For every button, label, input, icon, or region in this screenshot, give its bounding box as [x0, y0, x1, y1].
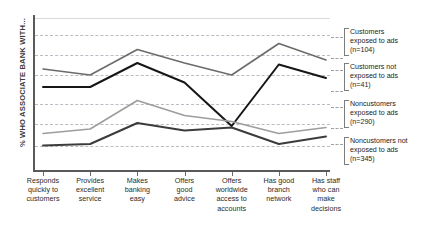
x-axis-label: Offers worldwide access to accounts: [209, 176, 255, 213]
x-label-line: branch: [256, 185, 302, 194]
legend-label-line: (n=345): [344, 155, 429, 164]
legend-leader-line: [331, 107, 343, 108]
legend-label-line: exposed to ads: [344, 72, 429, 81]
x-axis-labels: Responds quickly to customers Provides e…: [33, 176, 333, 228]
legend-label-line: (n=104): [344, 46, 429, 55]
series-line: [43, 101, 326, 134]
series-container: [33, 15, 330, 172]
x-axis-label: Offers good advice: [162, 176, 208, 204]
legend-label-line: Customers not: [344, 63, 429, 72]
x-axis-label: Has staff who can make decisions: [303, 176, 349, 213]
x-label-line: quickly to: [20, 185, 66, 194]
x-label-line: Has staff: [303, 176, 349, 185]
x-axis-label: Provides excellent service: [67, 176, 113, 204]
legend-label-line: (n=41): [344, 81, 429, 90]
x-label-line: customers: [20, 194, 66, 203]
x-label-line: decisions: [303, 204, 349, 213]
x-label-line: service: [67, 194, 113, 203]
legend-item-noncustomers-not-exposed[interactable]: Noncustomers not exposed to ads (n=345): [344, 137, 429, 164]
legend-leader-line: [331, 58, 343, 59]
x-label-line: excellent: [67, 185, 113, 194]
legend-label-line: Noncustomers not: [344, 137, 429, 146]
x-axis-label: Responds quickly to customers: [20, 176, 66, 204]
x-label-line: Makes: [114, 176, 160, 185]
x-label-line: Provides: [67, 176, 113, 185]
x-axis-label: Has good branch network: [256, 176, 302, 204]
legend-item-customers-exposed[interactable]: Customers exposed to ads (n=104): [344, 28, 429, 55]
x-label-line: Has good: [256, 176, 302, 185]
legend-label-line: (n=290): [344, 118, 429, 127]
x-label-line: advice: [162, 194, 208, 203]
legend-leader-line: [331, 144, 343, 145]
series-line: [43, 123, 326, 146]
legend-bracket: [344, 63, 349, 91]
x-label-line: Offers: [162, 176, 208, 185]
legend-leader-line: [331, 37, 343, 38]
series-line: [43, 44, 326, 76]
legend-bracket: [344, 137, 349, 165]
x-label-line: who can: [303, 185, 349, 194]
x-label-line: access to: [209, 194, 255, 203]
x-label-line: make: [303, 194, 349, 203]
legend-label-line: exposed to ads: [344, 146, 429, 155]
x-label-line: banking: [114, 185, 160, 194]
line-chart: % WHO ASSOCIATE BANK WITH... Responds qu…: [0, 0, 429, 231]
legend-leader-line: [331, 70, 343, 71]
y-axis-title: % WHO ASSOCIATE BANK WITH...: [18, 3, 27, 163]
legend-item-customers-not-exposed[interactable]: Customers not exposed to ads (n=41): [344, 63, 429, 90]
series-line: [43, 63, 326, 126]
x-label-line: network: [256, 194, 302, 203]
legend-label-line: exposed to ads: [344, 109, 429, 118]
legend: Customers exposed to ads (n=104) Custome…: [331, 14, 429, 174]
legend-bracket: [344, 28, 349, 56]
legend-leader-line: [331, 91, 343, 92]
legend-leader-line: [331, 128, 343, 129]
x-label-line: easy: [114, 194, 160, 203]
x-label-line: Responds: [20, 176, 66, 185]
x-axis-label: Makes banking easy: [114, 176, 160, 204]
legend-label-line: Noncustomers: [344, 100, 429, 109]
legend-bracket: [344, 100, 349, 128]
x-label-line: Offers: [209, 176, 255, 185]
x-label-line: accounts: [209, 204, 255, 213]
x-label-line: good: [162, 185, 208, 194]
legend-label-line: exposed to ads: [344, 37, 429, 46]
plot-area: [33, 15, 330, 172]
x-label-line: worldwide: [209, 185, 255, 194]
legend-item-noncustomers-exposed[interactable]: Noncustomers exposed to ads (n=290): [344, 100, 429, 127]
legend-label-line: Customers: [344, 28, 429, 37]
